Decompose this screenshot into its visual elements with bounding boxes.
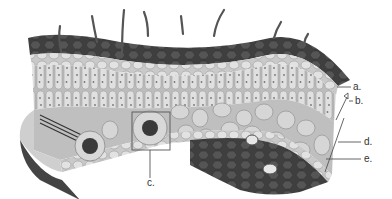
vascular-bundle-center bbox=[133, 111, 167, 145]
label-b: b. bbox=[355, 96, 363, 106]
label-a: a. bbox=[353, 82, 361, 92]
vascular-bundle-left bbox=[75, 131, 105, 161]
leaf-illustration bbox=[0, 0, 392, 199]
leaf-cross-section-diagram: a. b. c. d. e. bbox=[0, 0, 392, 199]
label-d: d. bbox=[364, 137, 372, 147]
label-e: e. bbox=[364, 154, 372, 164]
label-c: c. bbox=[147, 178, 155, 188]
